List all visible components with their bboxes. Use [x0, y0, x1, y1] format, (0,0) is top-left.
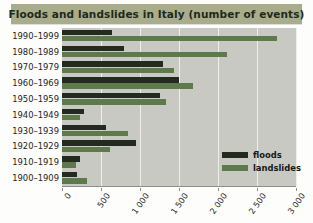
bar-landslides — [62, 36, 277, 41]
axis-tick-label: 500 — [95, 191, 112, 210]
axis-tick-label: 1 000 — [130, 191, 152, 216]
bar-landslides — [62, 178, 87, 183]
bar-landslides — [62, 131, 128, 136]
legend-item-floods: floods — [222, 150, 301, 160]
bar-floods — [62, 140, 136, 145]
axis-tick — [218, 188, 219, 191]
page-title: Floods and landslides in Italy (number o… — [9, 8, 305, 20]
axis-tick — [62, 188, 63, 191]
bar-landslides — [62, 83, 193, 88]
bar-floods — [62, 156, 80, 161]
axis-tick — [179, 188, 180, 191]
category-label: 1900–1909 — [12, 173, 59, 183]
axis-tick — [257, 188, 258, 191]
category-label: 1940–1949 — [12, 110, 59, 120]
axis-tick-label: 3 000 — [286, 191, 308, 216]
chart-title-bar: Floods and landslides in Italy (number o… — [11, 4, 302, 24]
axis-tick-label: 1 500 — [169, 191, 191, 216]
axis-tick — [101, 188, 102, 191]
chart-row: 1930–1939 — [62, 123, 296, 139]
bar-floods — [62, 61, 163, 66]
category-label: 1950–1959 — [12, 94, 59, 104]
category-label: 1930–1939 — [12, 126, 59, 136]
x-axis-line — [62, 186, 296, 187]
bar-landslides — [62, 147, 110, 152]
bar-floods — [62, 172, 77, 177]
category-label: 1960–1969 — [12, 78, 59, 88]
chart-row: 1960–1969 — [62, 75, 296, 91]
floods-swatch-icon — [222, 152, 248, 158]
chart-page: Floods and landslides in Italy (number o… — [0, 0, 313, 223]
legend-label-landslides: landslides — [253, 163, 301, 173]
chart-row: 1970–1979 — [62, 60, 296, 76]
legend-item-landslides: landslides — [222, 163, 301, 173]
axis-tick-label: 0 — [62, 191, 73, 201]
chart-row: 1940–1949 — [62, 107, 296, 123]
bar-floods — [62, 125, 106, 130]
bar-floods — [62, 77, 179, 82]
chart-row: 1980–1989 — [62, 44, 296, 60]
category-label: 1910–1919 — [12, 157, 59, 167]
bar-landslides — [62, 115, 80, 120]
legend-label-floods: floods — [253, 150, 282, 160]
chart-row: 1990–1999 — [62, 28, 296, 44]
bar-landslides — [62, 68, 174, 73]
category-label: 1990–1999 — [12, 31, 59, 41]
bar-landslides — [62, 52, 227, 57]
axis-tick — [296, 188, 297, 191]
category-label: 1980–1989 — [12, 47, 59, 57]
category-label: 1970–1979 — [12, 62, 59, 72]
bar-floods — [62, 30, 112, 35]
bar-landslides — [62, 162, 76, 167]
bar-floods — [62, 109, 84, 114]
axis-tick — [140, 188, 141, 191]
bar-landslides — [62, 99, 166, 104]
axis-tick-label: 2 500 — [247, 191, 269, 216]
category-label: 1920–1929 — [12, 141, 59, 151]
landslides-swatch-icon — [222, 165, 248, 171]
axis-tick-label: 2 000 — [208, 191, 230, 216]
bar-floods — [62, 93, 160, 98]
chart-legend: floods landslides — [222, 150, 301, 173]
chart-row: 1950–1959 — [62, 91, 296, 107]
bar-floods — [62, 46, 124, 51]
